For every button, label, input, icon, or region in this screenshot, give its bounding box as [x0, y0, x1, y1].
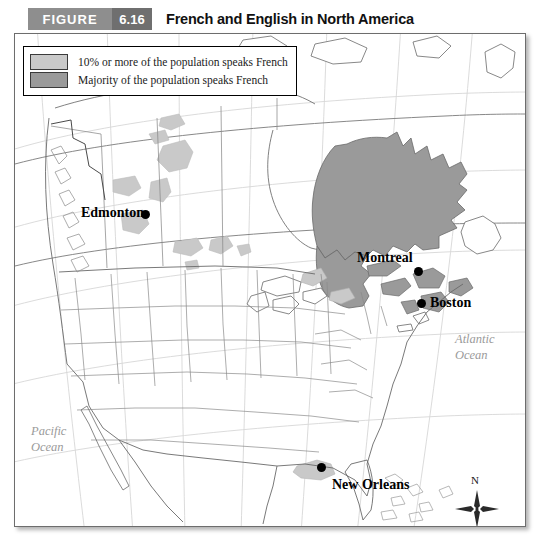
page-title: French and English in North America [166, 8, 414, 30]
city-dot-boston [417, 299, 426, 308]
ocean-label-pacific: Pacific Ocean [31, 424, 66, 455]
ocean-label-pacific-line1: Pacific [31, 424, 66, 440]
legend-label-minority: 10% or more of the population speaks Fre… [78, 56, 288, 68]
legend-item-majority: Majority of the population speaks French [30, 72, 288, 88]
compass-north-label: N [471, 474, 479, 486]
map-canvas [15, 34, 525, 526]
mexico-outline [119, 440, 183, 522]
ocean-label-atlantic-line1: Atlantic [455, 332, 495, 348]
figure-header: FIGURE 6.16 [28, 8, 152, 30]
region-quebec-majority [312, 132, 467, 260]
figure-word-badge: FIGURE [28, 8, 112, 30]
legend-swatch-majority [30, 72, 68, 88]
region-prairies-minority [113, 130, 251, 270]
compass-rose: N [453, 474, 501, 527]
northeast-coast-detail [397, 312, 429, 332]
city-dot-new-orleans [317, 463, 326, 472]
legend-swatch-minority [30, 54, 68, 70]
legend-item-minority: 10% or more of the population speaks Fre… [30, 54, 288, 70]
ocean-label-pacific-line2: Ocean [31, 440, 66, 456]
city-dot-edmonton [141, 210, 150, 219]
city-label-montreal: Montreal [357, 250, 413, 266]
region-louisiana-minority [293, 460, 335, 480]
mexico-east-coast [263, 466, 277, 524]
map-legend: 10% or more of the population speaks Fre… [23, 46, 297, 96]
figure-number-badge: 6.16 [112, 8, 152, 30]
city-label-boston: Boston [430, 295, 471, 311]
city-dot-montreal [414, 267, 423, 276]
city-label-new-orleans: New Orleans [332, 477, 409, 493]
legend-label-majority: Majority of the population speaks French [78, 74, 268, 86]
canada-outline [55, 84, 345, 250]
british-columbia-border [51, 120, 105, 200]
ocean-label-atlantic-line2: Ocean [455, 348, 495, 364]
compass-star-icon [453, 488, 501, 527]
city-label-edmonton: Edmonton [81, 205, 144, 221]
newfoundland [461, 216, 501, 254]
map-frame: 10% or more of the population speaks Fre… [14, 33, 526, 527]
ocean-label-atlantic: Atlantic Ocean [455, 332, 495, 363]
